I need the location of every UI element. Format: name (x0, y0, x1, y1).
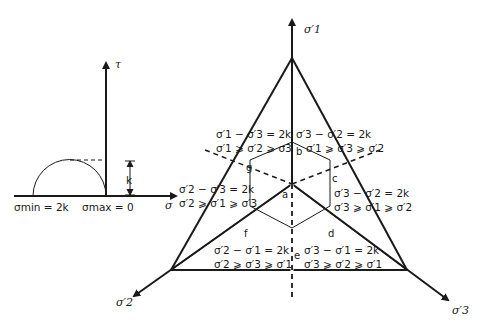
sigma2-axis-label: σ′2 (116, 296, 133, 309)
svg-text:σ′1 − σ′3 = 2k: σ′1 − σ′3 = 2k (216, 128, 292, 140)
svg-text:σ′3 ⩾ σ′1 ⩾ σ′2: σ′3 ⩾ σ′1 ⩾ σ′2 (334, 201, 412, 213)
point-c: c (332, 173, 338, 184)
sigma-min-label: σmin = 2k (14, 201, 70, 213)
tau-axis-label: τ (115, 58, 122, 71)
point-f: f (244, 228, 248, 239)
region-bottom-left: σ′2 − σ′1 = 2k σ′2 ⩾ σ′3 ⩾ σ′1 (214, 244, 292, 270)
svg-text:σ′3 − σ′2 = 2k: σ′3 − σ′2 = 2k (334, 187, 410, 199)
svg-text:σ′3 − σ′2 = 2k: σ′3 − σ′2 = 2k (296, 128, 372, 140)
svg-text:σ′2 ⩾ σ′1 ⩾ σ′3: σ′2 ⩾ σ′1 ⩾ σ′3 (179, 197, 257, 209)
point-a: a (282, 189, 288, 200)
point-g: g (246, 162, 252, 173)
svg-text:σ′2 − σ′3 = 2k: σ′2 − σ′3 = 2k (179, 183, 255, 195)
svg-text:σ′2 ⩾ σ′3 ⩾ σ′1: σ′2 ⩾ σ′3 ⩾ σ′1 (214, 258, 292, 270)
svg-text:σ′3 − σ′1 = 2k: σ′3 − σ′1 = 2k (304, 244, 380, 256)
yield-locus-diagram: τ σ k σmin = 2k σmax = 0 a b c d e f g (0, 0, 478, 321)
region-top-right: σ′3 − σ′2 = 2k σ′1 ⩾ σ′3 ⩾ σ′2 (296, 128, 384, 154)
svg-text:σ′1 ⩾ σ′3 ⩾ σ′2: σ′1 ⩾ σ′3 ⩾ σ′2 (306, 142, 384, 154)
mohr-circle-diagram: τ σ k σmin = 2k σmax = 0 (14, 58, 176, 213)
region-top-left: σ′1 − σ′3 = 2k σ′1 ⩾ σ′2 ⩾ σ3 (216, 128, 292, 156)
radius-label: k (126, 174, 133, 186)
svg-text:σ′2 − σ′1 = 2k: σ′2 − σ′1 = 2k (214, 244, 290, 256)
mohr-semicircle (33, 160, 106, 196)
region-left: σ′2 − σ′3 = 2k σ′2 ⩾ σ′1 ⩾ σ′3 (179, 183, 257, 209)
sigma1-axis-label: σ′1 (304, 23, 321, 36)
point-b: b (296, 146, 302, 157)
region-bottom-right: σ′3 − σ′1 = 2k σ′3 ⩾ σ′2 ⩾ σ′1 (304, 244, 382, 270)
svg-text:σ′1 ⩾ σ′2 ⩾ σ3: σ′1 ⩾ σ′2 ⩾ σ3 (216, 142, 292, 154)
point-e: e (294, 250, 300, 261)
sigma-axis-label: σ (165, 199, 173, 212)
svg-text:σ′3 ⩾ σ′2 ⩾ σ′1: σ′3 ⩾ σ′2 ⩾ σ′1 (304, 258, 382, 270)
sigma3-axis-label: σ′3 (452, 304, 469, 317)
region-right: σ′3 − σ′2 = 2k σ′3 ⩾ σ′1 ⩾ σ′2 (334, 187, 412, 213)
pi-plane-diagram: a b c d e f g σ′1 σ′2 σ′3 σ′1 − σ′3 = 2k… (116, 20, 469, 317)
sigma-max-label: σmax = 0 (82, 201, 134, 213)
point-d: d (328, 228, 334, 239)
